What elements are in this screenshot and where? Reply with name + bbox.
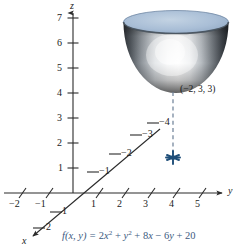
z-tick-label-2: 2: [57, 138, 62, 148]
vertex-annotation-layer: [0, 0, 240, 249]
y-tick-label-3: 3: [143, 199, 148, 209]
formula-rhs: 2x2 + y2 + 8x − 6y + 20: [99, 230, 196, 241]
x-tick-label-neg1: −1: [99, 166, 110, 176]
z-tick-label-6: 6: [57, 38, 62, 48]
z-tick-label-3: 3: [57, 113, 62, 123]
z-axis-label: z: [70, 1, 74, 11]
x-axis-label: x: [22, 236, 26, 246]
z-tick-label-4: 4: [57, 88, 62, 98]
x-tick-label-neg3: −3: [142, 129, 153, 139]
y-tick-label-5: 5: [195, 199, 200, 209]
x-tick-label-neg4: −4: [159, 117, 170, 127]
vertex-point-label: (−2, 3, 3): [180, 85, 215, 95]
z-tick-label-5: 5: [57, 63, 62, 73]
y-tick-label-4: 4: [169, 199, 174, 209]
y-tick-label-1: 1: [91, 199, 96, 209]
x-tick-label-2: 2: [46, 222, 51, 232]
y-tick-label-neg1: −1: [35, 199, 46, 209]
function-formula: f(x, y) = 2x2 + y2 + 8x − 6y + 20: [62, 231, 196, 242]
y-tick-label-2: 2: [117, 199, 122, 209]
x-tick-label-neg2: −2: [121, 148, 132, 158]
x-tick-label-1: 1: [62, 206, 67, 216]
formula-lhs: f(x, y) =: [62, 230, 99, 241]
z-tick-label-1: 1: [58, 163, 63, 173]
y-tick-label-neg2: −2: [9, 199, 20, 209]
y-axis-label: y: [228, 186, 232, 196]
z-tick-label-7: 7: [57, 13, 62, 23]
figure-3d-paraboloid: z y x 7 6 5 4 3 2 1 −2 −1 1 2 3 4 5 1 2 …: [0, 0, 240, 249]
